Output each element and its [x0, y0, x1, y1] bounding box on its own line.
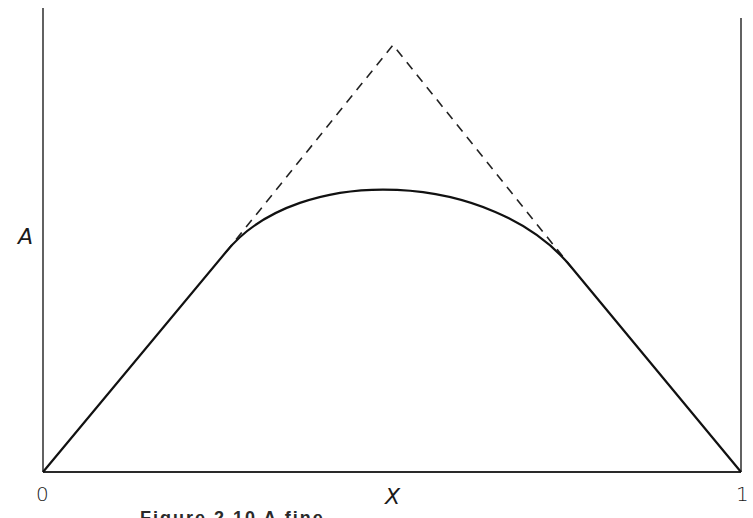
y-axis-label: A [18, 224, 33, 249]
figure-caption: Figure 2.10 A fine ... [140, 507, 353, 518]
x-tick-0: 0 [36, 482, 49, 506]
x-tick-1: 1 [736, 482, 749, 506]
figure: A X 0 1 Figure 2.10 A fine ... [0, 0, 753, 518]
x-axis-label: X [385, 484, 400, 509]
plot-area [0, 0, 753, 518]
dashed-triangle-series [226, 45, 572, 268]
solid-curve-series [43, 190, 741, 472]
